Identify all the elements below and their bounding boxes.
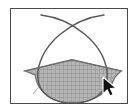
figure-drawing[interactable]	[11, 9, 127, 103]
geometry-canvas[interactable]	[10, 8, 128, 104]
app-root	[0, 0, 138, 111]
shaded-segment	[11, 49, 127, 103]
